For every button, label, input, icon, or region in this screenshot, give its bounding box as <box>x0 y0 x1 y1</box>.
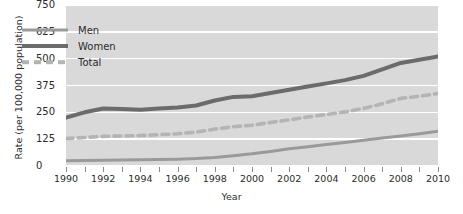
x-axis-tick-label: 2010 <box>426 173 450 184</box>
legend-item-women: Women <box>22 38 132 54</box>
legend-label-men: Men <box>78 25 99 36</box>
line-chart-figure: Rate (per 100,000 population) 0125250375… <box>0 0 463 214</box>
x-axis-tick-mark <box>326 167 327 172</box>
legend-swatch-women <box>22 44 68 48</box>
x-axis-tick-mark <box>382 167 383 172</box>
y-axis-tick-label: 750 <box>36 0 64 10</box>
x-axis-tick-label: 2004 <box>314 173 338 184</box>
x-axis-tick-label: 1996 <box>166 173 190 184</box>
series-line-total <box>66 93 438 138</box>
x-axis-tick-mark <box>364 167 365 172</box>
y-axis-tick-label: 375 <box>36 81 64 91</box>
x-axis-tick-mark <box>252 167 253 172</box>
y-axis-tick-label: 125 <box>36 134 64 144</box>
x-axis-tick-label: 2002 <box>277 173 301 184</box>
x-axis-tick-mark <box>233 167 234 172</box>
x-axis-tick-mark <box>85 167 86 172</box>
x-axis-tick-mark <box>178 167 179 172</box>
x-axis-title: Year <box>0 191 463 202</box>
x-axis-tick-mark <box>103 167 104 172</box>
y-axis-tick-label: 250 <box>36 107 64 117</box>
x-axis-tick-mark <box>271 167 272 172</box>
x-axis-tick-mark <box>66 167 67 172</box>
x-axis-tick-label: 1998 <box>203 173 227 184</box>
x-axis-tick-mark <box>159 167 160 172</box>
x-axis-tick-mark <box>308 167 309 172</box>
legend-swatch-men <box>22 29 68 32</box>
legend-item-total: Total <box>22 54 132 70</box>
x-axis-tick-mark <box>289 167 290 172</box>
y-axis-tick-label: 0 <box>36 161 64 171</box>
x-axis-tick-mark <box>345 167 346 172</box>
x-axis-tick-mark <box>122 167 123 172</box>
x-axis-tick-label: 2006 <box>352 173 376 184</box>
x-axis-tick-label: 1992 <box>91 173 115 184</box>
x-axis-tick-label: 2008 <box>389 173 413 184</box>
x-axis-tick-label: 2000 <box>240 173 264 184</box>
legend-label-total: Total <box>78 57 101 68</box>
x-axis-tick-label: 1990 <box>54 173 78 184</box>
x-axis-tick-mark <box>196 167 197 172</box>
x-axis-tick-mark <box>215 167 216 172</box>
x-axis-tick-mark <box>438 167 439 172</box>
legend: Men Women Total <box>22 22 132 70</box>
legend-item-men: Men <box>22 22 132 38</box>
legend-swatch-total <box>22 60 68 64</box>
x-axis-tick-label: 1994 <box>128 173 152 184</box>
x-axis-tick-mark <box>401 167 402 172</box>
x-axis-tick-mark <box>419 167 420 172</box>
legend-label-women: Women <box>78 41 116 52</box>
x-axis-tick-mark <box>140 167 141 172</box>
